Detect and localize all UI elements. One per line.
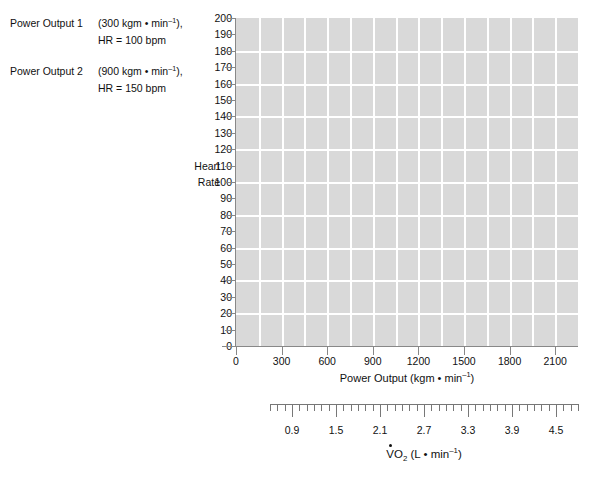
- vo2-minor-tick: [387, 404, 388, 411]
- vo2-minor-tick: [321, 404, 322, 411]
- x-axis-tick-label: 300: [273, 355, 291, 367]
- x-axis-tick-label: 600: [318, 355, 336, 367]
- vo2-axis-tick-label: 1.5: [329, 424, 344, 436]
- vo2-major-tick: [468, 404, 469, 417]
- vo2-minor-tick: [549, 404, 550, 411]
- x-axis-tick-label: 2100: [544, 355, 567, 367]
- vo2-minor-tick: [490, 404, 491, 411]
- x-axis-tick-label: 1200: [407, 355, 430, 367]
- power-output-1-value: (300 kgm • min–1),: [98, 18, 183, 30]
- vo2-minor-tick: [453, 404, 454, 411]
- gridline-horizontal: [236, 149, 578, 151]
- power-output-2-exponent: –1: [168, 65, 176, 73]
- vo2-minor-tick: [307, 404, 308, 411]
- vo2-minor-tick: [527, 404, 528, 411]
- gridline-horizontal: [236, 84, 578, 86]
- gridline-horizontal: [236, 116, 578, 118]
- power-output-2-value: (900 kgm • min–1),: [98, 66, 183, 78]
- x-axis-tick-mark: [464, 347, 465, 355]
- vo2-minor-tick: [402, 404, 403, 411]
- y-axis-tick-mark: [225, 248, 236, 249]
- gridline-horizontal: [236, 280, 578, 282]
- x-axis-tick-mark: [236, 347, 237, 355]
- y-axis-tick-mark: [225, 280, 236, 281]
- vo2-minor-tick: [395, 404, 396, 411]
- y-axis-tick-mark: [225, 264, 236, 265]
- vo2-axis-ruler: [270, 404, 578, 418]
- x-axis-tick-label: 900: [364, 355, 382, 367]
- x-axis-tick-label: 1800: [498, 355, 521, 367]
- power-output-1-hr: HR = 100 bpm: [98, 35, 200, 47]
- annotation-spacer: [10, 46, 200, 66]
- x-axis-tick-mark: [282, 347, 283, 355]
- y-axis-tick-mark: [225, 198, 236, 199]
- vo2-minor-tick: [329, 404, 330, 411]
- y-axis-tick-mark: [225, 182, 236, 183]
- y-axis-tick-mark: [225, 297, 236, 298]
- chart-plot-area: [236, 18, 578, 346]
- vo2-minor-tick: [373, 404, 374, 411]
- x-axis-title-exponent: –1: [462, 370, 470, 379]
- vo2-minor-tick: [519, 404, 520, 411]
- vo2-minor-tick: [417, 404, 418, 411]
- x-axis-title: Power Output (kgm • min–1): [236, 372, 578, 384]
- gridline-horizontal: [236, 313, 578, 315]
- vo2-minor-tick: [358, 404, 359, 411]
- gridline-horizontal: [236, 248, 578, 250]
- vo2-minor-tick: [299, 404, 300, 411]
- power-output-2-hr: HR = 150 bpm: [98, 83, 200, 95]
- vo2-axis-tick-label: 3.9: [505, 424, 520, 436]
- y-axis-tick-mark: [225, 67, 236, 68]
- y-axis-tick-mark: [225, 346, 236, 347]
- vo2-minor-tick: [439, 404, 440, 411]
- vo2-minor-tick: [505, 404, 506, 411]
- vo2-major-tick: [424, 404, 425, 417]
- vo2-minor-tick: [409, 404, 410, 411]
- x-axis-tick-label: 1500: [452, 355, 475, 367]
- vo2-axis-tick-label: 4.5: [549, 424, 564, 436]
- x-axis-tick-mark: [555, 347, 556, 355]
- vo2-minor-tick: [343, 404, 344, 411]
- vo2-major-tick: [512, 404, 513, 417]
- vo2-minor-tick: [446, 404, 447, 411]
- power-output-2-label: Power Output 2: [10, 66, 98, 78]
- y-axis-title-line1: Heart: [160, 160, 220, 172]
- vo2-major-tick: [380, 404, 381, 417]
- vo2-axis-tick-label: 2.7: [417, 424, 432, 436]
- vo2-minor-tick: [475, 404, 476, 411]
- vo2-minor-tick: [541, 404, 542, 411]
- y-axis-tick-mark: [225, 215, 236, 216]
- x-axis-line: [222, 346, 578, 347]
- vo2-minor-tick: [285, 404, 286, 411]
- vo2-minor-tick: [270, 404, 271, 411]
- y-axis-tick-mark: [225, 18, 236, 19]
- vo2-minor-tick: [578, 404, 579, 411]
- vo2-axis-tick-label: 2.1: [373, 424, 388, 436]
- vo2-minor-tick: [461, 404, 462, 411]
- vo2-minor-tick: [365, 404, 366, 411]
- vo2-axis-tick-label: 3.3: [461, 424, 476, 436]
- y-axis-title-line2: Rate: [160, 176, 220, 188]
- annotation-row-1: Power Output 1 (300 kgm • min–1),: [10, 18, 200, 30]
- gridline-horizontal: [236, 51, 578, 53]
- vo2-major-tick: [292, 404, 293, 417]
- y-axis-tick-mark: [225, 51, 236, 52]
- x-axis-tick-label: 0: [233, 355, 239, 367]
- y-axis-tick-mark: [225, 133, 236, 134]
- annotation-block: Power Output 1 (300 kgm • min–1), HR = 1…: [10, 18, 200, 94]
- vo2-minor-tick: [483, 404, 484, 411]
- gridline-horizontal: [236, 215, 578, 217]
- y-axis-tick-mark: [225, 149, 236, 150]
- power-output-1-label: Power Output 1: [10, 18, 98, 30]
- vo2-title-exponent: –1: [449, 446, 458, 455]
- vo2-minor-tick: [431, 404, 432, 411]
- annotation-row-2: Power Output 2 (900 kgm • min–1),: [10, 66, 200, 78]
- y-axis-tick-mark: [225, 100, 236, 101]
- y-axis-tick-mark: [225, 116, 236, 117]
- y-axis-tick-mark: [225, 313, 236, 314]
- vo2-dot-accent: V: [386, 448, 394, 460]
- vo2-minor-tick: [351, 404, 352, 411]
- vo2-axis-title: VO2 (L • min–1): [270, 448, 578, 460]
- vo2-minor-tick: [571, 404, 572, 411]
- y-axis-tick-mark: [225, 231, 236, 232]
